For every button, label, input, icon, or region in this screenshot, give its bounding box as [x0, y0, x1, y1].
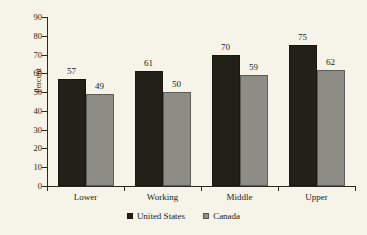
y-axis-line — [47, 17, 48, 187]
bar-value-label: 62 — [311, 58, 351, 67]
y-axis-tick-label: 30 — [12, 126, 42, 135]
y-axis-tick-label: 50 — [12, 88, 42, 97]
y-axis-tick-label: 20 — [12, 144, 42, 153]
legend-item-canada[interactable]: Canada — [203, 211, 240, 221]
y-axis-tick-labels: 0102030405060708090 — [8, 17, 42, 187]
bar-lower-united-states — [58, 79, 86, 186]
y-axis-tick — [42, 17, 47, 18]
bar-chart: Percent 0102030405060708090 574961507059… — [0, 0, 367, 235]
x-axis-tick — [124, 186, 125, 191]
y-axis-tick — [42, 55, 47, 56]
x-axis-tick — [201, 186, 202, 191]
bar-value-label: 75 — [283, 33, 323, 42]
bar-value-label: 50 — [157, 80, 197, 89]
y-axis-tick-label: 70 — [12, 51, 42, 60]
y-axis-tick — [42, 130, 47, 131]
x-axis-tick — [47, 186, 48, 191]
y-axis-tick — [42, 111, 47, 112]
bar-working-canada — [163, 92, 191, 186]
y-axis-tick — [42, 148, 47, 149]
y-axis-tick — [42, 36, 47, 37]
x-axis-tick — [278, 186, 279, 191]
x-axis-category-label-working: Working — [124, 192, 201, 202]
black-square-marker-icon — [127, 213, 133, 219]
y-axis-tick — [42, 73, 47, 74]
y-axis-tick-label: 60 — [12, 69, 42, 78]
y-axis-tick — [42, 92, 47, 93]
bar-value-label: 61 — [129, 59, 169, 68]
bar-middle-canada — [240, 75, 268, 186]
plot-area: 5749615070597562 — [47, 17, 355, 186]
y-axis-tick-label: 80 — [12, 32, 42, 41]
bar-value-label: 59 — [234, 63, 274, 72]
gray-square-marker-icon — [203, 213, 209, 219]
legend-item-label: United States — [137, 211, 185, 221]
legend-item-label: Canada — [213, 211, 240, 221]
bar-value-label: 70 — [206, 43, 246, 52]
y-axis-tick-label: 40 — [12, 107, 42, 116]
y-axis-tick-label: 90 — [12, 13, 42, 22]
legend-item-united-states[interactable]: United States — [127, 211, 185, 221]
bar-value-label: 57 — [52, 67, 92, 76]
y-axis-tick-label: 0 — [12, 182, 42, 191]
x-axis-tick — [355, 186, 356, 191]
y-axis-tick-label: 10 — [12, 163, 42, 172]
x-axis-category-label-upper: Upper — [278, 192, 355, 202]
x-axis-category-label-lower: Lower — [47, 192, 124, 202]
x-axis-category-label-middle: Middle — [201, 192, 278, 202]
chart-legend: United StatesCanada — [0, 211, 367, 221]
y-axis-tick — [42, 167, 47, 168]
bar-value-label: 49 — [80, 82, 120, 91]
bar-lower-canada — [86, 94, 114, 186]
bar-upper-canada — [317, 70, 345, 186]
bar-middle-united-states — [212, 55, 240, 186]
